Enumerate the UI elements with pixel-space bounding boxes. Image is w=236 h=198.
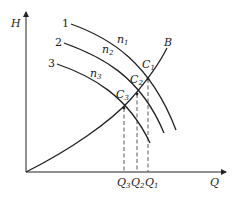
curve-label-2: 2 <box>55 36 62 49</box>
x-axis-label: Q <box>210 176 219 189</box>
y-axis-label: H <box>10 17 21 30</box>
point-label-c3: C3 <box>116 88 129 102</box>
speed-label-n3: n3 <box>90 67 102 81</box>
point-label-c2: C2 <box>130 73 143 87</box>
pump-speed-diagram: H Q 1 2 3 n1 n2 n3 B C1 C2 C3 Q3 Q2 Q1 <box>0 0 236 198</box>
tick-label-q2: Q2 <box>131 176 145 190</box>
tick-label-q3: Q3 <box>117 176 131 190</box>
system-curve-label: B <box>163 36 172 49</box>
curve-label-3: 3 <box>48 57 55 70</box>
point-label-c1: C1 <box>142 58 155 72</box>
tick-label-q1: Q1 <box>145 176 159 190</box>
pump-curve-2 <box>64 43 164 133</box>
speed-label-n1: n1 <box>117 33 129 47</box>
curve-label-1: 1 <box>62 17 69 30</box>
